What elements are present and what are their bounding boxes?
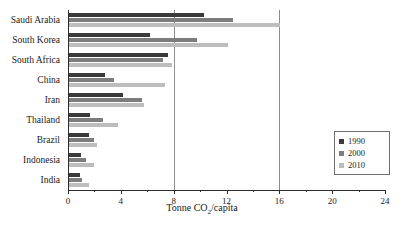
legend-item-2010: 2010 xyxy=(339,159,385,171)
x-axis-label-post: /capita xyxy=(211,202,238,213)
x-minor-tick-10 xyxy=(200,190,201,192)
legend-item-2000: 2000 xyxy=(339,147,385,159)
bar xyxy=(69,53,168,57)
x-tick-4 xyxy=(121,190,122,194)
bar xyxy=(69,83,165,87)
bar xyxy=(69,13,204,17)
bar-group: South Africa xyxy=(68,53,385,67)
bar xyxy=(69,183,89,187)
bar-group: Iran xyxy=(68,93,385,107)
bar-group: Saudi Arabia xyxy=(68,13,385,27)
bar xyxy=(69,153,81,157)
x-minor-tick-6 xyxy=(147,190,148,192)
category-label: Brazil xyxy=(0,135,60,145)
bar xyxy=(69,133,89,137)
x-minor-tick-22 xyxy=(359,190,360,192)
bar xyxy=(69,58,163,62)
bar xyxy=(69,33,150,37)
bar xyxy=(69,93,123,97)
bar xyxy=(69,178,82,182)
bar xyxy=(69,173,80,177)
category-label: South Korea xyxy=(0,35,60,45)
x-axis-label: Tonne CO2/capita xyxy=(0,202,404,216)
category-label: Indonesia xyxy=(0,155,60,165)
legend-label-1990: 1990 xyxy=(348,137,365,146)
legend-label-2000: 2000 xyxy=(348,149,365,158)
legend-swatch-icon-1990 xyxy=(339,139,344,144)
bar xyxy=(69,103,144,107)
bar xyxy=(69,123,118,127)
bar xyxy=(69,78,114,82)
category-label: China xyxy=(0,75,60,85)
bar xyxy=(69,73,105,77)
category-label: Saudi Arabia xyxy=(0,15,60,25)
legend: 1990 2000 2010 xyxy=(334,131,390,175)
x-tick-0 xyxy=(68,190,69,194)
category-label: South Africa xyxy=(0,55,60,65)
bar-group: South Korea xyxy=(68,33,385,47)
bar xyxy=(69,113,90,117)
bar xyxy=(69,118,103,122)
legend-label-2010: 2010 xyxy=(348,161,365,170)
x-tick-16 xyxy=(279,190,280,194)
x-minor-tick-14 xyxy=(253,190,254,192)
category-label: Thailand xyxy=(0,115,60,125)
co2-per-capita-bar-chart: 04812162024 Saudi ArabiaSouth KoreaSouth… xyxy=(0,0,404,226)
x-tick-8 xyxy=(174,190,175,194)
bar xyxy=(69,38,197,42)
bar-group: China xyxy=(68,73,385,87)
legend-item-1990: 1990 xyxy=(339,135,385,147)
bar xyxy=(69,63,172,67)
bar-group: India xyxy=(68,173,385,187)
bar xyxy=(69,163,94,167)
bar-group: Thailand xyxy=(68,113,385,127)
x-axis-label-pre: Tonne CO xyxy=(166,202,207,213)
legend-swatch-icon-2000 xyxy=(339,151,344,156)
bar xyxy=(69,43,228,47)
x-minor-tick-2 xyxy=(94,190,95,192)
category-label: Iran xyxy=(0,95,60,105)
x-tick-12 xyxy=(227,190,228,194)
bar xyxy=(69,158,86,162)
bar xyxy=(69,143,97,147)
bar xyxy=(69,98,142,102)
bar xyxy=(69,138,94,142)
bar xyxy=(69,18,233,22)
x-tick-24 xyxy=(385,190,386,194)
category-label: India xyxy=(0,175,60,185)
legend-swatch-icon-2010 xyxy=(339,163,344,168)
bar xyxy=(69,23,280,27)
x-minor-tick-18 xyxy=(306,190,307,192)
x-tick-20 xyxy=(332,190,333,194)
